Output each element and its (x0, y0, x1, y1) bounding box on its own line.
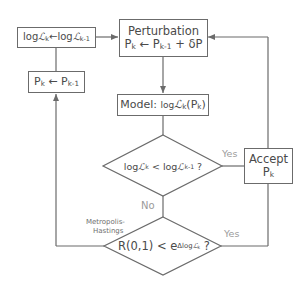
revert-params-box: Pk ← Pk-1 (28, 71, 85, 93)
yes-label-likelihood: Yes (222, 148, 237, 159)
model-text: Model: logℒk(Pk) (120, 99, 205, 111)
accept-box: Accept Pk (244, 148, 293, 184)
perturbation-formula: Pk ← Pk-1 + δP (125, 38, 203, 51)
revert-params-text: Pk ← Pk-1 (34, 76, 79, 88)
perturbation-box: Perturbation Pk ← Pk-1 + δP (119, 19, 208, 57)
no-label: No (141, 200, 155, 211)
metropolis-label-line2: Hastings (93, 227, 123, 235)
update-loglik-text: logℒk←logℒk-1 (23, 31, 90, 43)
decision-metropolis-text: R(0,1) < eΔlogℒk ? (112, 236, 216, 256)
metropolis-label-line1: Metropolis- (86, 218, 125, 226)
accept-param: Pk (263, 166, 274, 179)
model-box: Model: logℒk(Pk) (117, 94, 209, 116)
yes-label-metropolis: Yes (224, 228, 239, 239)
decision-likelihood-text: logℒk < logℒk-1 ? (113, 158, 213, 174)
update-loglik-box: logℒk←logℒk-1 (17, 27, 96, 48)
